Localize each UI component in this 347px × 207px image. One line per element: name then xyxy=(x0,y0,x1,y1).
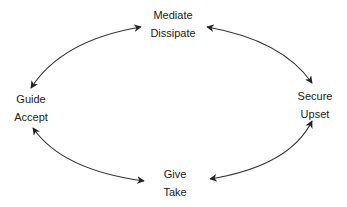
node-left: Guide Accept xyxy=(14,90,48,126)
node-top-line-1: Mediate xyxy=(150,6,195,24)
arrow-bottom-right xyxy=(210,121,312,179)
arrow-left-top xyxy=(31,27,141,88)
node-bottom-line-1: Give xyxy=(163,165,186,183)
node-right: Secure Upset xyxy=(298,87,333,123)
node-top-line-2: Dissipate xyxy=(150,24,195,42)
arrow-left-bottom xyxy=(33,128,144,181)
node-left-line-1: Guide xyxy=(14,90,48,108)
node-right-line-2: Upset xyxy=(298,105,333,123)
cycle-diagram: Mediate Dissipate Guide Accept Secure Up… xyxy=(0,0,347,207)
node-top: Mediate Dissipate xyxy=(150,6,195,42)
node-right-line-1: Secure xyxy=(298,87,333,105)
node-bottom: Give Take xyxy=(163,165,186,201)
arrow-top-right xyxy=(207,27,312,83)
node-left-line-2: Accept xyxy=(14,108,48,126)
node-bottom-line-2: Take xyxy=(163,183,186,201)
